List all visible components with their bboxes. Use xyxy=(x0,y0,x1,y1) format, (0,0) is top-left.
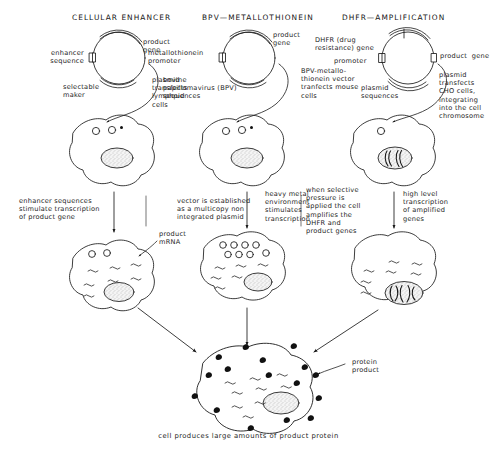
diagram-canvas: CELLULAR ENHANCER BPV—METALLOTHIONEIN DH… xyxy=(0,0,497,453)
plasmid-cellular-enhancer xyxy=(90,30,146,88)
label-protein-product: protein product xyxy=(352,358,379,374)
cell-multicopy-plasmid xyxy=(200,232,285,300)
cell-mouse xyxy=(199,115,284,186)
cell-amplified xyxy=(351,232,436,305)
label-plasmid-transfects-cho: plasmid transfects CHO cells, integratin… xyxy=(439,71,484,120)
label-selectable-maker: selectable maker xyxy=(63,83,99,99)
label-promoter: promoter xyxy=(334,57,367,65)
label-heavy-metal: heavy metal environment stimulates trans… xyxy=(265,190,310,223)
column-header-bpv-metallothionein: BPV—METALLOTHIONEIN xyxy=(202,13,314,22)
label-enhancer-sequence: enhancer sequence xyxy=(26,49,84,65)
label-multicopy-plasmid: vector is established as a multicopy non… xyxy=(177,197,250,222)
figure-caption: cell produces large amounts of product p… xyxy=(0,432,497,440)
cell-expressing-enhancer xyxy=(69,240,157,311)
diagram-artwork xyxy=(0,0,497,453)
label-product-gene-2: product gene xyxy=(273,31,300,47)
label-high-level-transcription: high level transcription of amplified ge… xyxy=(403,190,448,223)
cell-lymphoid xyxy=(69,115,154,186)
label-bpv-vector-transfects: BPV-metallo- thionein vector tranfects m… xyxy=(301,67,359,100)
label-selective-pressure: when selective pressure is applied the c… xyxy=(306,186,361,235)
label-plasmid-sequences: plasmid sequences xyxy=(361,84,398,100)
cell-final-product xyxy=(192,343,345,433)
label-product-gene-3: product gene xyxy=(440,52,489,60)
label-metallothionein-promoter: metallothionein promoter xyxy=(148,49,203,65)
column-header-dhfr-amplification: DHFR—AMPLIFICATION xyxy=(342,13,445,22)
label-product-mrna: product mRNA xyxy=(159,230,186,246)
plasmid-dhfr-amplification xyxy=(379,27,437,91)
cell-cho xyxy=(350,115,435,186)
label-enhancer-stimulates: enhancer sequences stimulate transcripti… xyxy=(19,197,100,222)
label-bpv-sequences: bovine papillomavirus (BPV) sequences xyxy=(163,76,237,101)
column-header-cellular-enhancer: CELLULAR ENHANCER xyxy=(72,13,171,22)
label-dhfr-gene: DHFR (drug resistance) gene xyxy=(315,36,374,52)
